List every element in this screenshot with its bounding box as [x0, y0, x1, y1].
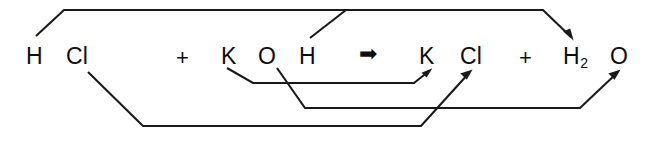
atom-label-o-product-water: O: [610, 45, 628, 68]
mapping-line-h-of-koh-to-h2o: [310, 10, 346, 38]
atom-label-o-reactant-koh: O: [258, 45, 276, 68]
reaction-yields-arrow-icon: ➡: [359, 43, 377, 65]
arrowhead-cl-of-hcl-to-kcl: [460, 69, 472, 79]
mapping-line-cl-of-hcl-to-kcl: [88, 72, 469, 126]
atom-label-cl-reactant-hcl: Cl: [66, 45, 88, 68]
atom-label-h-reactant-hcl: H: [26, 45, 43, 68]
mapping-line-k-of-koh-to-kcl: [227, 68, 429, 83]
atom-label-h2-subscript: 2: [580, 55, 588, 71]
atom-label-h2-product-water: H2: [563, 45, 588, 68]
product-plus-sign: +: [519, 47, 532, 69]
atom-label-k-product-kcl: K: [419, 45, 435, 68]
atom-label-k-reactant-koh: K: [221, 45, 237, 68]
mapping-line-o-of-koh-to-h2o: [277, 68, 617, 108]
reactant-plus-sign: +: [176, 47, 189, 69]
atom-label-h2-symbol: H: [563, 43, 580, 69]
mapping-lines-layer: [0, 0, 652, 144]
atom-label-h-reactant-koh: H: [299, 45, 316, 68]
atom-label-cl-product-kcl: Cl: [460, 45, 482, 68]
reaction-mapping-diagram: H Cl + K O H ➡ K Cl + H2 O: [0, 0, 652, 144]
mapping-line-h-of-hcl-to-h2o: [36, 10, 571, 37]
